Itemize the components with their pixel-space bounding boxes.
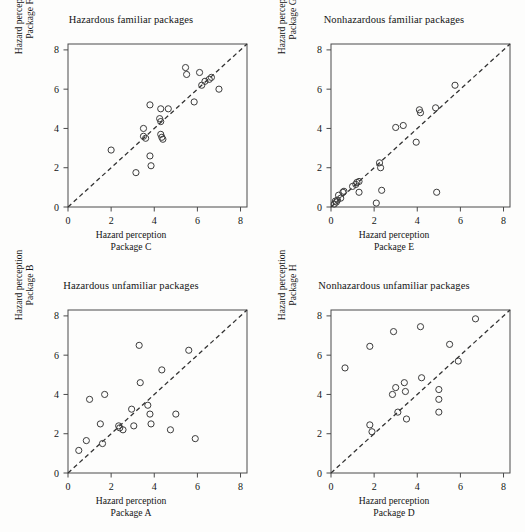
plot-area: 0246802468 (0, 266, 262, 532)
x-tick-label: 6 (195, 215, 200, 226)
data-point (369, 429, 375, 435)
data-point (373, 200, 379, 206)
y-axis-label-line1: Hazard perception (276, 0, 287, 54)
data-point (182, 64, 188, 70)
data-point (403, 416, 409, 422)
data-point (147, 411, 153, 417)
plot-frame (68, 310, 247, 473)
data-point (434, 189, 440, 195)
x-axis-label-line2: Package D (263, 507, 525, 519)
x-tick-label: 4 (415, 481, 420, 492)
data-point (379, 187, 385, 193)
x-tick-label: 0 (329, 215, 334, 226)
data-point (447, 341, 453, 347)
y-axis-label-line2: Package G (287, 0, 298, 84)
y-tick-label: 2 (54, 428, 59, 439)
y-tick-label: 6 (317, 350, 322, 361)
data-point (159, 367, 165, 373)
data-point (432, 105, 438, 111)
y-tick-label: 0 (54, 468, 59, 479)
x-tick-label: 8 (501, 215, 506, 226)
x-tick-label: 4 (152, 481, 157, 492)
data-point (147, 153, 153, 159)
data-point (167, 427, 173, 433)
y-tick-label: 0 (54, 202, 59, 213)
data-point (131, 423, 137, 429)
data-point (452, 82, 458, 88)
data-point (129, 406, 135, 412)
data-point (413, 139, 419, 145)
data-point (137, 380, 143, 386)
y-tick-label: 4 (317, 123, 322, 134)
data-point (417, 324, 423, 330)
plot-area: 0246802468 (0, 0, 262, 266)
x-axis-label-line2: Package C (0, 241, 262, 253)
y-tick-label: 8 (317, 310, 322, 321)
data-point (140, 125, 146, 131)
data-point (393, 124, 399, 130)
y-axis-label-line2: Package H (287, 220, 298, 350)
x-axis-label-line2: Package A (0, 507, 262, 519)
y-axis-label-line2: Package B (24, 220, 35, 350)
y-tick-label: 2 (317, 162, 322, 173)
x-axis-label-line1: Hazard perception (96, 495, 167, 506)
panel-hazardous-unfamiliar: Hazardous unfamiliar packages 0246802468… (0, 266, 262, 532)
x-axis-label: Hazard perception Package E (263, 229, 525, 252)
data-point (186, 347, 192, 353)
plot-area: 0246802468 (263, 266, 525, 532)
data-point (395, 409, 401, 415)
data-point (390, 329, 396, 335)
y-tick-label: 4 (317, 389, 322, 400)
y-tick-label: 6 (54, 350, 59, 361)
x-tick-label: 4 (152, 215, 157, 226)
data-point (147, 102, 153, 108)
identity-reference-line (331, 310, 510, 473)
y-tick-label: 4 (54, 389, 59, 400)
data-point (133, 170, 139, 176)
data-point (196, 69, 202, 75)
x-tick-label: 8 (238, 215, 243, 226)
data-point (76, 447, 82, 453)
y-axis-label: Hazard perception Package H (276, 220, 298, 350)
panel-nonhazardous-unfamiliar: Nonhazardous unfamiliar packages 0246802… (263, 266, 525, 532)
x-tick-label: 0 (329, 481, 334, 492)
y-tick-label: 8 (54, 310, 59, 321)
y-tick-label: 6 (54, 84, 59, 95)
plot-frame (68, 44, 247, 207)
data-point (356, 189, 362, 195)
x-axis-label-line1: Hazard perception (96, 229, 167, 240)
x-tick-label: 8 (238, 481, 243, 492)
panel-hazardous-familiar: Hazardous familiar packages 0246802468 H… (0, 0, 262, 266)
data-point (389, 391, 395, 397)
data-point (436, 409, 442, 415)
x-axis-label: Hazard perception Package D (263, 495, 525, 518)
data-point (402, 388, 408, 394)
plot-area: 0246802468 (263, 0, 525, 266)
data-point (158, 106, 164, 112)
y-tick-label: 2 (54, 162, 59, 173)
y-axis-label-line2: Package F (24, 0, 35, 84)
x-axis-label: Hazard perception Package A (0, 495, 262, 518)
data-point (165, 106, 171, 112)
data-point (108, 147, 114, 153)
y-axis-label: Hazard perception Package F (13, 0, 35, 84)
data-point (86, 396, 92, 402)
y-tick-label: 8 (54, 44, 59, 55)
x-tick-label: 2 (372, 481, 377, 492)
x-tick-label: 4 (415, 215, 420, 226)
data-point (367, 422, 373, 428)
x-tick-label: 6 (458, 481, 463, 492)
data-point (102, 391, 108, 397)
x-tick-label: 6 (195, 481, 200, 492)
data-point (192, 436, 198, 442)
data-point (184, 71, 190, 77)
x-axis-label-line2: Package E (263, 241, 525, 253)
scatter-figure-grid: Hazardous familiar packages 0246802468 H… (0, 0, 525, 532)
data-point (173, 411, 179, 417)
data-point (148, 163, 154, 169)
x-tick-label: 6 (458, 215, 463, 226)
x-tick-label: 2 (372, 215, 377, 226)
x-tick-label: 8 (501, 481, 506, 492)
y-tick-label: 2 (317, 428, 322, 439)
y-axis-label: Hazard perception Package G (276, 0, 298, 84)
